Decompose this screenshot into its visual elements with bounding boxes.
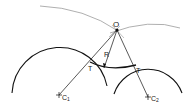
- line-o-c2: [117, 30, 148, 97]
- label-t-right: T: [136, 67, 141, 74]
- label-c2: C2: [151, 95, 159, 103]
- construction-arc-right: [110, 24, 180, 33]
- line-o-c1: [59, 30, 117, 95]
- circle-c1-arc: [12, 47, 107, 93]
- label-r: R: [104, 51, 109, 58]
- label-c1: C1: [62, 94, 70, 102]
- circle-c2-arc: [114, 69, 182, 94]
- construction-arc-left: [40, 6, 118, 31]
- label-o: O: [113, 20, 119, 29]
- label-t-left: T: [88, 65, 93, 72]
- tangent-arc: [90, 62, 136, 68]
- tangent-arc-diagram: O R T T C1 C2: [0, 0, 192, 107]
